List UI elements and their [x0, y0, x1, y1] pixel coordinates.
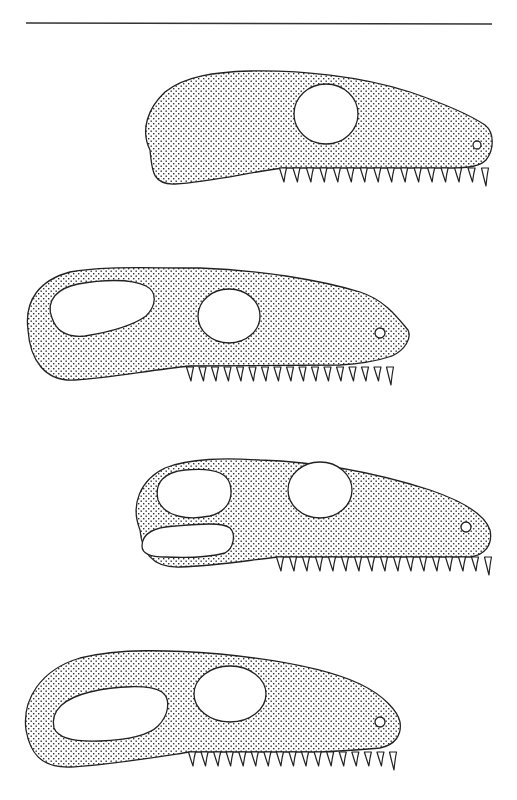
tooth: [324, 367, 331, 381]
tooth: [276, 752, 283, 766]
tooth: [360, 168, 367, 182]
skull-comparison-figure: [0, 0, 517, 800]
tooth: [237, 367, 244, 381]
skull-1-orbit: [294, 84, 358, 144]
tooth: [312, 367, 319, 381]
tooth: [362, 367, 369, 381]
skull-1: [146, 71, 493, 186]
tooth: [239, 752, 246, 766]
tooth: [390, 752, 397, 770]
skull-4-teeth: [189, 752, 397, 770]
skull-3-lower-fenestra: [142, 524, 233, 557]
tooth: [347, 168, 354, 182]
tooth: [189, 752, 196, 766]
tooth: [472, 557, 479, 571]
tooth: [262, 367, 269, 381]
tooth: [280, 168, 287, 182]
skull-2: [27, 268, 409, 385]
tooth: [201, 752, 208, 766]
tooth: [441, 168, 448, 182]
tooth: [187, 367, 194, 381]
tooth: [482, 168, 489, 186]
tooth: [387, 367, 394, 385]
tooth: [433, 557, 440, 571]
tooth: [381, 557, 388, 571]
skull-3-upper-fenestra: [157, 469, 231, 517]
skull-4-orbit: [194, 666, 266, 722]
tooth: [377, 752, 384, 766]
skull-4-nostril: [375, 717, 385, 727]
skull-2-orbit: [198, 289, 260, 343]
skull-3: [136, 459, 491, 575]
tooth: [349, 367, 356, 381]
tooth: [302, 752, 309, 766]
tooth: [277, 557, 284, 571]
tooth: [355, 557, 362, 571]
skull-3-teeth: [277, 557, 492, 575]
tooth: [212, 367, 219, 381]
tooth: [446, 557, 453, 571]
tooth: [299, 367, 306, 381]
tooth: [407, 557, 414, 571]
tooth: [306, 168, 313, 182]
skull-2-nostril: [375, 328, 385, 338]
top-rule: [26, 23, 492, 24]
tooth: [342, 557, 349, 571]
tooth: [314, 752, 321, 766]
skull-1-teeth: [280, 168, 489, 186]
tooth: [468, 168, 475, 182]
tooth: [251, 752, 258, 766]
tooth: [387, 168, 394, 182]
tooth: [414, 168, 421, 182]
skull-3-orbit: [288, 462, 352, 518]
tooth: [224, 367, 231, 381]
tooth: [287, 367, 294, 381]
tooth: [274, 367, 281, 381]
tooth: [293, 168, 300, 182]
tooth: [214, 752, 221, 766]
tooth: [316, 557, 323, 571]
tooth: [333, 168, 340, 182]
tooth: [374, 168, 381, 182]
tooth: [394, 557, 401, 571]
tooth: [337, 367, 344, 381]
tooth: [329, 557, 336, 571]
tooth: [339, 752, 346, 766]
skull-3-nostril: [461, 522, 471, 532]
tooth: [226, 752, 233, 766]
tooth: [264, 752, 271, 766]
tooth: [401, 168, 408, 182]
tooth: [428, 168, 435, 182]
tooth: [455, 168, 462, 182]
tooth: [459, 557, 466, 571]
tooth: [199, 367, 206, 381]
tooth: [320, 168, 327, 182]
tooth: [327, 752, 334, 766]
tooth: [289, 752, 296, 766]
tooth: [485, 557, 492, 575]
tooth: [420, 557, 427, 571]
tooth: [303, 557, 310, 571]
skull-2-teeth: [187, 367, 394, 385]
tooth: [290, 557, 297, 571]
tooth: [352, 752, 359, 766]
tooth: [368, 557, 375, 571]
tooth: [249, 367, 256, 381]
tooth: [374, 367, 381, 381]
skull-1-nostril: [473, 141, 481, 149]
tooth: [364, 752, 371, 766]
skull-4: [25, 651, 400, 770]
